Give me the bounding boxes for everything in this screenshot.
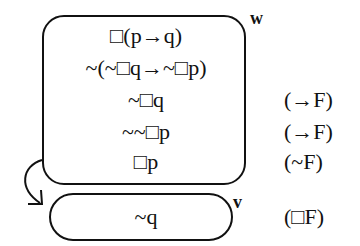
accessibility-arrow-icon xyxy=(0,0,360,246)
